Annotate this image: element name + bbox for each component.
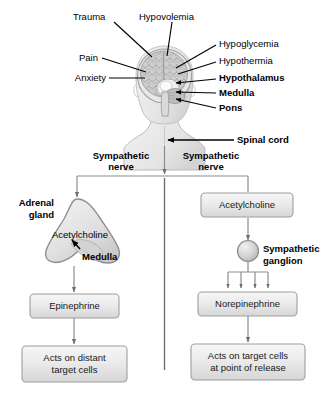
sympathetic-nerve-left-line1: Sympathetic <box>78 150 164 161</box>
brain-label-pons: Pons <box>219 102 242 113</box>
adrenal-medulla-label: Medulla <box>82 251 117 262</box>
norepinephrine-box <box>198 292 297 316</box>
stimulus-label-trauma: Trauma <box>73 11 105 22</box>
leader-trauma <box>114 22 152 57</box>
stimulus-label-anxiety: Anxiety <box>22 72 106 83</box>
spinal-cord-label: Spinal cord <box>237 134 289 145</box>
stimulus-label-pain: Pain <box>30 52 98 63</box>
sympathetic-ganglion-label-line2: ganglion <box>263 255 303 266</box>
stimulus-label-hypothermia: Hypothermia <box>219 55 273 66</box>
sympathetic-nerve-right-line1: Sympathetic <box>168 150 254 161</box>
left-outcome-box <box>22 346 127 382</box>
adrenal-gland-label-line1: Adrenal <box>2 197 54 208</box>
sympathetic-nerve-right-line2: nerve <box>168 161 254 172</box>
right-outcome-box <box>191 344 305 380</box>
adrenal-acetylcholine-label: Acetylcholine <box>38 229 122 240</box>
sympathetic-nerve-left-line2: nerve <box>78 161 164 172</box>
stimulus-label-hypoglycemia: Hypoglycemia <box>219 38 279 49</box>
acetylcholine-box <box>201 193 293 217</box>
stimulus-label-hypovolemia: Hypovolemia <box>139 11 194 22</box>
sympathetic-ganglion-label-line1: Sympathetic <box>263 243 320 254</box>
right-pathway-connectors <box>228 218 268 342</box>
epinephrine-box <box>30 294 119 318</box>
sympathetic-pathway-diagram: Trauma Hypovolemia Pain Anxiety Hypoglyc… <box>0 0 326 399</box>
brain-label-medulla: Medulla <box>219 87 254 98</box>
adrenal-gland-label-line2: gland <box>2 209 54 220</box>
brain-label-hypothalamus: Hypothalamus <box>219 72 284 83</box>
sympathetic-ganglion-circle <box>238 241 259 262</box>
